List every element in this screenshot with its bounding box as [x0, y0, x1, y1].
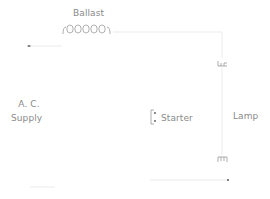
- starter-label: Starter: [161, 113, 193, 124]
- lamp-filament-top-icon: [218, 61, 227, 66]
- ballast-label: Ballast: [73, 8, 104, 19]
- starter-icon: [151, 110, 156, 124]
- lamp-filament-bottom-icon: [218, 157, 227, 162]
- junction-dot-icon: [227, 179, 229, 181]
- fluorescent-lamp-circuit-diagram: Ballast A. C. Supply Starter Lamp: [0, 0, 270, 199]
- ac-label: A. C.: [17, 99, 41, 110]
- wires: [29, 32, 228, 187]
- ballast-coil-icon: [63, 25, 110, 34]
- supply-label: Supply: [11, 113, 42, 124]
- lamp-label: Lamp: [233, 111, 258, 122]
- supply-terminal-icon: [27, 45, 31, 47]
